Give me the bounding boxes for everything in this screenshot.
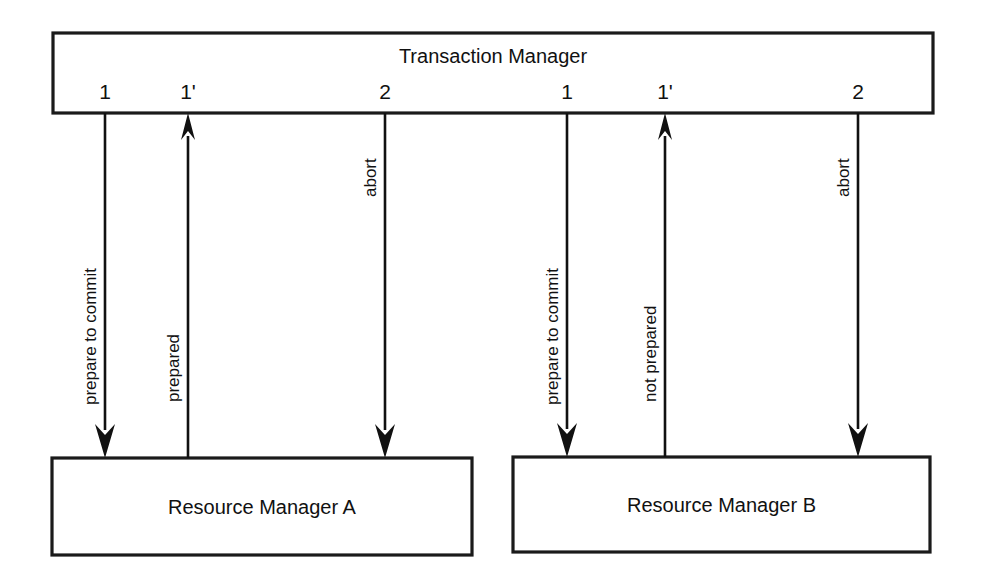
resource-manager-a-label: Resource Manager A bbox=[168, 496, 357, 518]
diagram-canvas: Transaction Manager Resource Manager A R… bbox=[0, 0, 982, 587]
message-label: abort bbox=[361, 158, 380, 197]
message-a-prepare[interactable]: prepare to commit bbox=[81, 113, 115, 458]
message-b-not-prepared[interactable]: not prepared bbox=[641, 113, 672, 457]
message-label: prepare to commit bbox=[543, 268, 562, 405]
node-resource-manager-b[interactable]: Resource Manager B bbox=[513, 457, 930, 552]
message-b-abort[interactable]: abort bbox=[834, 113, 868, 457]
port-label-1prime-b: 1' bbox=[657, 80, 673, 103]
node-resource-manager-a[interactable]: Resource Manager A bbox=[52, 458, 472, 555]
message-arrows: prepare to commitpreparedabortprepare to… bbox=[81, 113, 868, 458]
message-label: abort bbox=[834, 158, 853, 197]
port-label-1-a: 1 bbox=[99, 80, 111, 103]
message-a-abort[interactable]: abort bbox=[361, 113, 395, 458]
message-a-prepared[interactable]: prepared bbox=[164, 113, 195, 458]
port-label-1-b: 1 bbox=[561, 80, 573, 103]
message-b-prepare[interactable]: prepare to commit bbox=[543, 113, 577, 457]
port-label-2-b: 2 bbox=[852, 80, 864, 103]
message-label: prepared bbox=[164, 334, 183, 402]
arrowhead-up-icon bbox=[658, 113, 672, 140]
transaction-manager-label: Transaction Manager bbox=[399, 45, 588, 67]
port-label-2-a: 2 bbox=[379, 80, 391, 103]
message-label: not prepared bbox=[641, 306, 660, 402]
port-label-1prime-a: 1' bbox=[180, 80, 196, 103]
arrowhead-up-icon bbox=[181, 113, 195, 140]
sequence-diagram-svg: Transaction Manager Resource Manager A R… bbox=[0, 0, 982, 587]
message-label: prepare to commit bbox=[81, 268, 100, 405]
resource-manager-b-label: Resource Manager B bbox=[627, 494, 816, 516]
